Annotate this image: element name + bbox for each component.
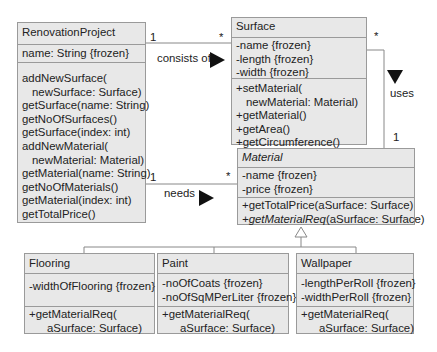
generalization-triangle-icon xyxy=(295,227,307,237)
operations: +getMaterialReq( aSurface: Surface) xyxy=(297,306,413,336)
class-name: RenovationProject xyxy=(18,23,145,44)
class-name: Surface xyxy=(232,18,366,37)
class-material[interactable]: Material -name {frozen} -price {frozen} … xyxy=(237,148,415,225)
consists-of-arrow-icon xyxy=(210,52,225,68)
operations: +setMaterial( newMaterial: Material) +ge… xyxy=(232,78,366,151)
attributes: -noOfCoats {frozen} -noOfSqMPerLiter {fr… xyxy=(158,273,288,306)
uses-mult-top: * xyxy=(374,30,378,42)
needs-arrow-icon xyxy=(199,190,214,206)
class-name: Paint xyxy=(158,254,288,273)
operations: +getTotalPrice(aSurface: Surface) +getMa… xyxy=(238,197,414,227)
uses-mult-bottom: 1 xyxy=(393,131,399,143)
uses-line xyxy=(366,50,384,148)
consists-of-label: consists of xyxy=(157,52,211,64)
operations: +getMaterialReq( aSurface: Surface) xyxy=(25,306,154,336)
class-surface[interactable]: Surface -name {frozen} -length {frozen} … xyxy=(231,17,367,145)
uses-label: uses xyxy=(390,87,414,99)
attributes: -name {frozen} -length {frozen} -width {… xyxy=(232,37,366,78)
class-wallpaper[interactable]: Wallpaper -lengthPerRoll {frozen} -width… xyxy=(296,253,414,334)
attributes: -name {frozen} -price {frozen} xyxy=(238,167,414,197)
consists-of-mult-right: * xyxy=(219,31,223,43)
class-renovation-project[interactable]: RenovationProject name: String {frozen} … xyxy=(17,22,146,223)
class-flooring[interactable]: Flooring -widthOfFlooring {frozen} +getM… xyxy=(24,253,155,334)
class-name: Flooring xyxy=(25,254,154,273)
attributes: name: String {frozen} xyxy=(18,44,145,62)
consists-of-mult-left: 1 xyxy=(150,31,156,43)
class-paint[interactable]: Paint -noOfCoats {frozen} -noOfSqMPerLit… xyxy=(157,253,289,334)
class-name: Wallpaper xyxy=(297,254,413,273)
class-name: Material xyxy=(238,149,414,167)
needs-label: needs xyxy=(164,187,195,199)
needs-mult-right: * xyxy=(226,170,230,182)
operations: +getMaterialReq( aSurface: Surface) xyxy=(158,306,288,336)
attributes: -lengthPerRoll {frozen} -widthPerRoll {f… xyxy=(297,273,413,306)
uses-arrow-icon xyxy=(387,70,403,84)
operations: addNewSurface( newSurface: Surface) getS… xyxy=(18,62,145,223)
attributes: -widthOfFlooring {frozen} xyxy=(25,273,154,306)
